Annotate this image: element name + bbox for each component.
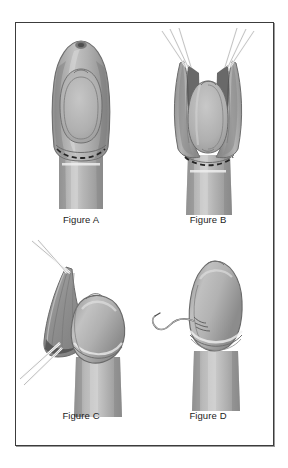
incision-light-band (190, 170, 226, 173)
illustration-plate: Figure A (15, 22, 274, 446)
shaft-right-shadow (224, 155, 232, 215)
figure-b-caption: Figure B (144, 214, 272, 225)
figure-panel-d: Figure D (144, 239, 272, 443)
shaft-right-shadow (114, 357, 122, 417)
needle-tip (155, 313, 160, 316)
exposed-glans (188, 81, 228, 153)
shaft-left-shadow (186, 155, 194, 215)
incision-light-band (62, 163, 100, 166)
figure-c-caption: Figure C (18, 410, 144, 421)
upper-instruments (32, 240, 70, 273)
shaft-highlight (208, 351, 216, 411)
instrument-edge (24, 348, 62, 385)
left-traction-sutures (162, 28, 191, 67)
figure-b-illustration (144, 27, 272, 239)
instrument-edge (38, 240, 67, 273)
figure-a-caption: Figure A (18, 214, 144, 225)
shaft-highlight (90, 357, 98, 417)
shaft-left-shadow (74, 357, 82, 417)
suture-thread (153, 316, 194, 330)
figure-d-caption: Figure D (144, 410, 272, 421)
figure-panel-b: Figure B (144, 27, 272, 239)
right-traction-sutures (225, 28, 254, 67)
shaft-left-shadow (192, 351, 200, 411)
meatus-center (78, 43, 84, 47)
instrument-edge (20, 343, 60, 379)
shaft-right-shadow (232, 351, 240, 411)
corona-outline-outer (60, 69, 102, 143)
figure-panel-c: Figure C (18, 239, 144, 443)
figure-a-illustration (18, 27, 144, 239)
figure-panel-a: Figure A (18, 27, 144, 239)
